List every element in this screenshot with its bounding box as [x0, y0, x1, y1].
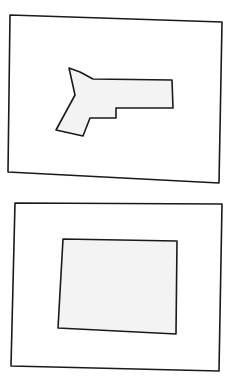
rectangle-shape	[58, 239, 177, 334]
sketch-canvas	[0, 0, 236, 384]
top-panel	[8, 15, 222, 183]
pistol-icon	[56, 68, 173, 136]
bottom-panel	[11, 203, 222, 371]
